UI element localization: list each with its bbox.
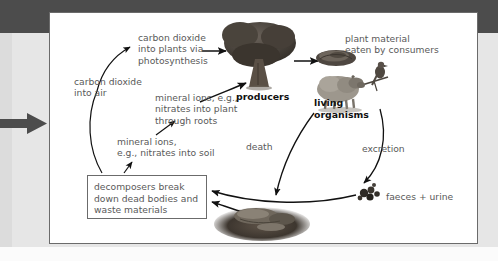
label-faeces-and-urine: faeces + urine [386,191,453,202]
faeces-to-decomposers-arrow [212,191,356,202]
label-death: death [246,141,273,152]
label-co2-into-plants: carbon dioxide into plants via photosynt… [138,32,208,66]
label-co2-into-air: carbon dioxide into air [74,76,142,99]
dead-animal-carcass-image [214,207,310,241]
decomposers-to-soil-minerals-arrow [124,162,132,173]
page-root: carbon dioxide into plants via photosynt… [0,0,498,261]
label-excretion: excretion [362,143,405,154]
label-plant-material-eaten-by-consumers: plant material eaten by consumers [345,33,439,56]
bottom-white-margin [0,247,498,261]
label-living-organisms: living organisms [314,97,369,121]
label-producers: producers [236,91,289,102]
faeces-image [358,183,380,201]
page-pointer-arrow-icon [0,112,48,135]
death-arrow [276,113,314,195]
decomposers-box-text: decomposers break down dead bodies and w… [94,181,198,216]
label-mineral-ions-into-soil: mineral ions, e.g., nitrates into soil [117,136,215,159]
tree-producer-image [222,22,296,90]
decomposers-to-co2-arrow [90,91,102,173]
label-mineral-ions-into-plant: mineral ions, e.g., nitrates into plant … [155,92,238,126]
diagram-panel: carbon dioxide into plants via photosynt… [49,12,478,244]
decomposers-box: decomposers break down dead bodies and w… [87,175,207,219]
left-edge-strip [0,33,12,247]
